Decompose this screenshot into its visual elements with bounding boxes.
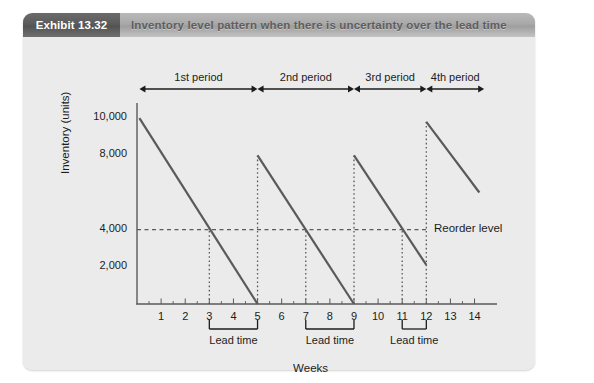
x-axis-title: Weeks bbox=[281, 362, 341, 374]
inventory-segment-0 bbox=[139, 118, 257, 304]
x-tick-label-6: 6 bbox=[273, 310, 291, 322]
x-tick-label-2: 2 bbox=[176, 310, 194, 322]
reorder-level-label: Reorder level bbox=[434, 222, 502, 234]
period-label-1: 1st period bbox=[153, 71, 243, 83]
y-tick-label-4000: 4,000 bbox=[69, 222, 127, 234]
period-arrow-head-right-2 bbox=[420, 86, 426, 93]
x-tick-label-13: 13 bbox=[441, 310, 459, 322]
x-tick-label-1: 1 bbox=[152, 310, 170, 322]
x-tick-label-9: 9 bbox=[345, 310, 363, 322]
period-arrow-head-left-2 bbox=[354, 86, 360, 93]
period-arrow-head-right-3 bbox=[478, 86, 484, 93]
inventory-segment-6 bbox=[426, 122, 479, 193]
x-tick-label-4: 4 bbox=[224, 310, 242, 322]
y-axis-title: Inventory (units) bbox=[59, 91, 71, 173]
exhibit-title: Inventory level pattern when there is un… bbox=[131, 13, 507, 37]
x-tick-label-8: 8 bbox=[321, 310, 339, 322]
x-tick-label-10: 10 bbox=[369, 310, 387, 322]
y-tick-label-2000: 2,000 bbox=[69, 259, 127, 271]
x-tick-label-5: 5 bbox=[249, 310, 267, 322]
lead-time-label-1: Lead time bbox=[193, 334, 273, 346]
x-tick-label-3: 3 bbox=[200, 310, 218, 322]
period-arrow-head-left-1 bbox=[258, 86, 264, 93]
x-tick-label-7: 7 bbox=[297, 310, 315, 322]
inventory-segment-4 bbox=[354, 155, 426, 265]
lead-time-label-2: Lead time bbox=[290, 334, 370, 346]
y-tick-label-8000: 8,000 bbox=[69, 147, 127, 159]
lead-time-label-3: Lead time bbox=[374, 334, 454, 346]
period-label-4: 4th period bbox=[410, 71, 500, 83]
exhibit-number-badge: Exhibit 13.32 bbox=[23, 13, 120, 37]
x-tick-label-12: 12 bbox=[417, 310, 435, 322]
period-arrow-head-right-1 bbox=[348, 86, 354, 93]
inventory-chart: 12345678910111213142,0004,0008,00010,000… bbox=[23, 37, 535, 370]
exhibit-panel: Exhibit 13.32 Inventory level pattern wh… bbox=[23, 13, 535, 370]
y-tick-label-10000: 10,000 bbox=[69, 110, 127, 122]
x-tick-label-11: 11 bbox=[393, 310, 411, 322]
period-label-2: 2nd period bbox=[261, 71, 351, 83]
period-arrow-head-right-0 bbox=[252, 86, 258, 93]
period-arrow-head-left-0 bbox=[139, 86, 145, 93]
period-arrow-head-left-3 bbox=[426, 86, 432, 93]
x-tick-label-14: 14 bbox=[466, 310, 484, 322]
